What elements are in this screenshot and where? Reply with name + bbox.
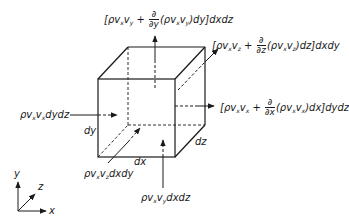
axis-z-label: z [38,181,43,193]
back-flux-label: [ρvxvz + ∂∂z(ρvxvz)dz]dxdy [212,36,340,55]
cube [98,47,205,157]
axis-y-label: y [14,168,20,180]
top-flux-label: [ρvxvy + ∂∂y(ρvxvy)dy]dxdz [104,10,233,29]
left-flux-label: ρvxvxdydz [20,109,69,124]
front-flux-label: ρvxvzdxdy [84,168,133,183]
dx-label: dx [134,156,146,168]
bottom-flux-label: ρvxvydxdz [141,192,190,207]
dy-label: dy [84,125,96,137]
dz-label: dz [195,136,207,148]
right-flux-label: [ρvxvx + ∂∂x(ρvxvx)dx]dydz [220,98,349,117]
axis-x-label: x [49,205,55,217]
